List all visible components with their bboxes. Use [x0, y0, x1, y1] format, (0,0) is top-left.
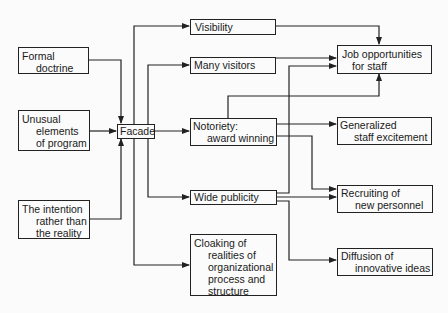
facade-diagram: Formal doctrine Unusual elements of prog…: [0, 0, 448, 313]
formal-doctrine-box: Formal doctrine: [18, 47, 89, 74]
box-label-line: innovative ideas: [341, 262, 429, 274]
box-label-line: Cloaking of: [194, 237, 273, 249]
many-visitors-box: Many visitors: [190, 57, 276, 74]
box-label-line: of program: [22, 137, 86, 149]
job-opportunities-box: Job opportunities for staff: [337, 45, 432, 74]
box-label-line: organizational: [194, 261, 273, 273]
generalized-excitement-box: Generalized staff excitement: [337, 117, 432, 145]
visibility-box: Visibility: [190, 19, 276, 35]
recruiting-box: Recruiting of new personnel: [337, 185, 433, 213]
box-label-line: Unusual: [22, 113, 86, 125]
box-label-line: process and: [194, 273, 273, 285]
box-label-line: Formal: [22, 50, 85, 62]
box-label-line: elements: [22, 125, 86, 137]
cloaking-box: Cloaking of realities of organizational …: [190, 234, 277, 296]
box-label-line: award winning: [193, 132, 274, 144]
wide-publicity-box: Wide publicity: [190, 190, 277, 205]
box-label-line: Recruiting of: [341, 187, 429, 199]
box-label-line: Diffusion of: [341, 250, 429, 262]
box-label-line: Facade: [120, 125, 152, 138]
diffusion-box: Diffusion of innovative ideas: [337, 248, 433, 276]
box-label-line: Notoriety:: [193, 120, 274, 132]
facade-box: Facade: [117, 124, 155, 139]
box-label-line: staff excitement: [340, 131, 429, 143]
box-label-line: doctrine: [22, 62, 85, 74]
box-label-line: rather than: [22, 215, 86, 227]
box-label-line: Wide publicity: [194, 191, 273, 203]
unusual-elements-box: Unusual elements of program: [18, 110, 90, 151]
box-label-line: Job opportunities: [342, 48, 427, 60]
intention-box: The intention rather than the reality: [18, 200, 90, 239]
box-label-line: Many visitors: [194, 59, 272, 71]
box-label-line: The intention: [22, 203, 86, 215]
box-label-line: Visibility: [195, 21, 271, 33]
box-label-line: the reality: [22, 227, 86, 239]
box-label-line: realities of: [194, 249, 273, 261]
box-label-line: for staff: [342, 60, 427, 72]
box-label-line: structure: [194, 285, 273, 297]
box-label-line: Generalized: [340, 119, 429, 131]
notoriety-box: Notoriety: award winning: [190, 118, 277, 146]
box-label-line: new personnel: [341, 199, 429, 211]
